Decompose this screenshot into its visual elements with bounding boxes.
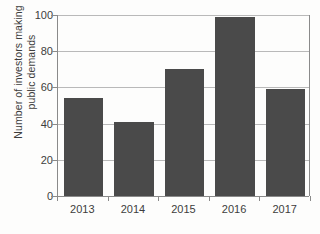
x-axis-tick-label-2013: 2013: [55, 203, 109, 215]
bar-chart: Number of investors making public demand…: [0, 0, 320, 234]
x-axis-tick-mark: [259, 196, 260, 201]
x-axis-tick-mark: [158, 196, 159, 201]
y-axis-tick-label: 40: [13, 118, 53, 130]
bar-2013: [64, 98, 103, 196]
y-axis-tick-label: 100: [13, 9, 53, 21]
bar-2017: [266, 89, 305, 196]
plot-area: [57, 15, 310, 196]
axis-baseline: [58, 196, 309, 197]
y-axis-tick-label: 0: [13, 190, 53, 202]
bar-2014: [114, 122, 153, 196]
x-axis-tick-mark: [108, 196, 109, 201]
bar-2016: [215, 17, 254, 196]
y-axis-tick-label: 60: [13, 81, 53, 93]
x-axis-tick-label-2016: 2016: [207, 203, 261, 215]
x-axis-tick-mark: [57, 196, 58, 201]
bars-group: [58, 15, 309, 196]
y-axis-tick-label: 20: [13, 154, 53, 166]
y-axis-tick-label: 80: [13, 45, 53, 57]
x-axis-tick-label-2017: 2017: [258, 203, 312, 215]
x-axis-tick-label-2014: 2014: [106, 203, 160, 215]
bar-2015: [165, 69, 204, 196]
x-axis-tick-mark: [310, 196, 311, 201]
x-axis-tick-mark: [209, 196, 210, 201]
x-axis-tick-label-2015: 2015: [157, 203, 211, 215]
